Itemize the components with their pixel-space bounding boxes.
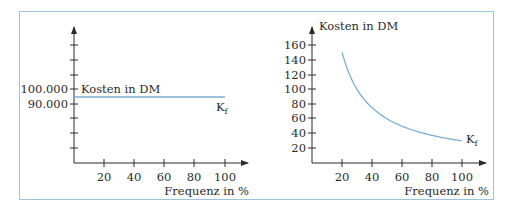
right-series-kf-curve: [342, 52, 462, 140]
left-x-axis-title: Frequenz in %: [164, 184, 249, 198]
right-x-tick-label: 80: [425, 170, 440, 184]
left-y-label-90000: 90.000: [28, 97, 68, 111]
right-y-tick-label: 160: [284, 38, 306, 52]
right-y-tick-label: 20: [291, 141, 306, 155]
right-y-tick-label: 120: [284, 68, 306, 82]
left-chart: 100.000 90.000 Kosten in DM Kf 20 40 60 …: [20, 27, 249, 198]
left-x-tick-label: 20: [97, 170, 112, 184]
right-y-tick-label: 80: [291, 97, 306, 111]
left-x-tick-label: 80: [187, 170, 202, 184]
right-x-tick-label: 60: [395, 170, 410, 184]
right-y-axis-title: Kosten in DM: [319, 19, 399, 33]
left-x-tick-label: 40: [127, 170, 142, 184]
left-y-axis-title: Kosten in DM: [81, 82, 161, 96]
right-series-label: Kf: [466, 132, 479, 148]
right-x-tick-label: 40: [365, 170, 380, 184]
right-x-tick-label: 20: [335, 170, 350, 184]
left-y-label-100000: 100.000: [20, 82, 68, 96]
right-y-tick-label: 40: [291, 126, 306, 140]
right-x-axis-title: Frequenz in %: [404, 184, 489, 198]
right-y-tick-label: 60: [291, 111, 306, 125]
left-series-label: Kf: [216, 100, 229, 116]
right-chart: Kosten in DM 160 140 120 100 80 60 40 20…: [284, 19, 489, 198]
right-y-tick-label: 100: [284, 82, 306, 96]
charts-canvas: 100.000 90.000 Kosten in DM Kf 20 40 60 …: [0, 0, 511, 209]
right-y-tick-label: 140: [284, 53, 306, 67]
left-x-tick-label: 100: [214, 170, 236, 184]
right-x-tick-label: 100: [451, 170, 473, 184]
left-x-tick-label: 60: [157, 170, 172, 184]
